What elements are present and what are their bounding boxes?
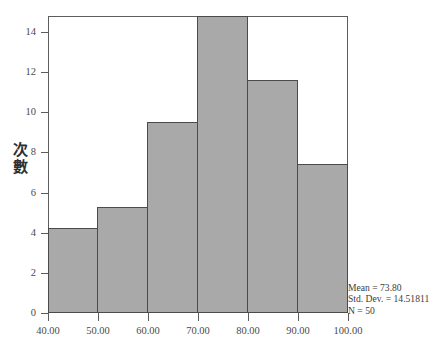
y-tick-label: 10 [0, 107, 36, 118]
stat-mean: Mean = 73.80 [348, 282, 437, 293]
y-tick-label: 12 [0, 67, 36, 78]
x-tick-mark [98, 313, 99, 321]
x-tick-label: 100.00 [318, 325, 378, 336]
histogram-bar [197, 16, 248, 313]
histogram-bar [48, 228, 98, 313]
y-tick-label: 6 [0, 188, 36, 199]
histogram-bar [97, 207, 148, 313]
y-tick-label: 4 [0, 228, 36, 239]
y-tick-label: 2 [0, 268, 36, 279]
x-tick-mark [48, 313, 49, 321]
y-tick-label: 0 [0, 308, 36, 319]
histogram-bar [247, 80, 298, 314]
statistics-annotation: Mean = 73.80 Std. Dev. = 14.51811 N = 50 [348, 282, 437, 316]
stat-std-dev: Std. Dev. = 14.51811 [348, 293, 437, 304]
y-axis-title-char-2: 數 [9, 159, 31, 176]
x-tick-mark [198, 313, 199, 321]
y-tick-label: 14 [0, 27, 36, 38]
bars-layer [48, 16, 348, 313]
x-tick-mark [148, 313, 149, 321]
stat-n: N = 50 [348, 305, 437, 316]
histogram-bar [297, 164, 348, 313]
x-tick-mark [298, 313, 299, 321]
y-tick-label: 8 [0, 147, 36, 158]
histogram-chart: 次 數 0 2 4 6 8 10 12 14 40.00 50 [0, 0, 437, 351]
x-tick-mark [248, 313, 249, 321]
histogram-bar [147, 122, 198, 313]
